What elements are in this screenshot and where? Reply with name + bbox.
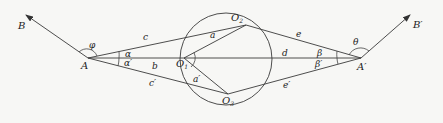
geometry-diagram: B A B′ A′ O1 O2 O3 c b c′ a a′ d e e′ φ … <box>0 0 443 123</box>
label-alpha-prime: α′ <box>124 58 132 68</box>
label-b: b <box>152 61 158 71</box>
label-a: a <box>210 30 215 40</box>
label-beta-prime: β′ <box>314 59 322 69</box>
segment-c <box>88 25 246 58</box>
label-B: B <box>17 20 25 31</box>
label-theta: θ <box>353 37 359 47</box>
angle-alpha-prime-arc <box>118 58 119 66</box>
ray-Aprime-Bprime <box>361 15 410 58</box>
label-c-prime: c′ <box>149 78 156 88</box>
label-e-prime: e′ <box>283 80 290 90</box>
label-A: A <box>80 60 88 71</box>
label-O3: O3 <box>222 95 234 107</box>
label-B-prime: B′ <box>412 19 423 30</box>
segment-c-prime <box>88 58 228 94</box>
label-A-prime: A′ <box>356 61 367 72</box>
segment-e <box>246 25 361 58</box>
label-d: d <box>282 48 288 58</box>
label-a-prime: a′ <box>193 74 200 84</box>
label-beta: β <box>316 48 322 58</box>
circle <box>180 13 272 105</box>
label-e: e <box>296 29 301 39</box>
angle-beta-prime-arc <box>337 58 338 64</box>
ray-A-B <box>26 15 88 58</box>
label-c: c <box>143 32 148 42</box>
label-phi: φ <box>89 40 96 50</box>
segment-e-prime <box>228 58 361 94</box>
label-O2: O2 <box>231 12 243 24</box>
